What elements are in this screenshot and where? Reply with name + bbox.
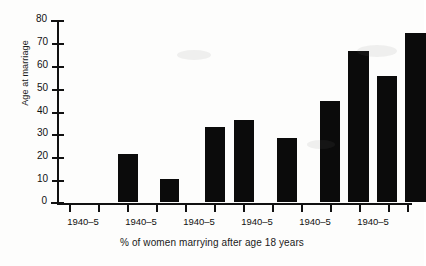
x-tick-label-2: 1940–5: [125, 216, 157, 227]
bar-8: [277, 138, 297, 202]
x-axis-title: % of women marrying after age 18 years: [0, 237, 424, 248]
x-tick-label-3: 1940–5: [183, 216, 215, 227]
bar-12: [405, 33, 426, 202]
scan-artefact: [177, 50, 211, 60]
y-tick-20: 20: [52, 157, 64, 159]
x-tick-label-6: 1940–5: [357, 216, 389, 227]
x-tick-7: [243, 204, 245, 212]
x-tick-4: [156, 204, 158, 212]
y-tick-0: 0: [51, 202, 64, 204]
y-tick-40: 40: [52, 112, 64, 114]
x-tick-label-5: 1940–5: [299, 216, 331, 227]
y-tick-label-10: 10: [26, 173, 48, 185]
y-tick-10: 10: [52, 180, 64, 182]
y-tick-label-30: 30: [26, 127, 48, 139]
y-tick-label-70: 70: [26, 36, 48, 48]
x-tick-5: [185, 204, 187, 212]
x-tick-6: [214, 204, 216, 212]
y-tick-label-50: 50: [26, 82, 48, 94]
y-tick-70: 70: [52, 43, 64, 45]
x-tick-1: [69, 204, 71, 212]
y-tick-30: 30: [52, 134, 64, 136]
x-tick-8: [272, 204, 274, 212]
bar-10: [348, 51, 369, 202]
x-tick-3: [127, 204, 129, 212]
y-tick-label-40: 40: [26, 105, 48, 117]
x-tick-label-1: 1940–5: [67, 216, 99, 227]
bar-7: [234, 120, 254, 202]
x-tick-2: [98, 204, 100, 212]
y-tick-80: 80: [51, 20, 64, 22]
x-tick-9: [301, 204, 303, 212]
y-tick-label-80: 80: [25, 13, 47, 25]
y-tick-label-0: 0: [25, 195, 47, 207]
x-tick-10: [330, 204, 332, 212]
y-tick-60: 60: [52, 66, 64, 68]
y-tick-label-20: 20: [26, 150, 48, 162]
y-tick-50: 50: [52, 89, 64, 91]
bar-6: [205, 127, 225, 203]
bar-4: [160, 179, 179, 202]
x-tick-11: [359, 204, 361, 212]
plot-area: 0 10 20 30 40 50 60 70 80: [57, 20, 412, 203]
bar-3: [118, 154, 138, 202]
y-tick-label-60: 60: [26, 59, 48, 71]
x-tick-12: [388, 204, 390, 212]
bar-11: [377, 76, 397, 202]
bar-9: [320, 101, 340, 202]
x-tick-label-4: 1940–5: [241, 216, 273, 227]
x-tick-13: [407, 204, 409, 212]
